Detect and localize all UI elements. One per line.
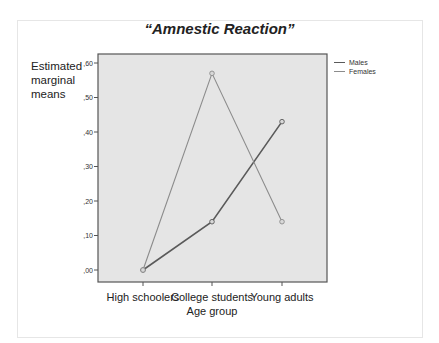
x-category-college-students: College students <box>171 291 253 303</box>
legend-item-males: Males <box>334 58 376 67</box>
y-axis-ticks: ,00,10,20,30,40,50,60 <box>83 60 98 274</box>
svg-text:,10: ,10 <box>83 232 93 239</box>
svg-text:,40: ,40 <box>83 129 93 136</box>
x-category-young-adults: Young adults <box>250 291 313 303</box>
x-axis-ticks <box>143 282 282 286</box>
svg-text:,30: ,30 <box>83 163 93 170</box>
legend: Males Females <box>334 58 376 76</box>
svg-text:,00: ,00 <box>83 267 93 274</box>
legend-item-females: Females <box>334 67 376 76</box>
svg-text:,60: ,60 <box>83 60 93 67</box>
svg-text:,50: ,50 <box>83 94 93 101</box>
x-category-high-schoolers: High schoolers <box>107 291 180 303</box>
females-line-swatch-icon <box>334 71 345 72</box>
x-axis-label: Age group <box>187 305 238 317</box>
svg-text:,20: ,20 <box>83 198 93 205</box>
males-line-swatch-icon <box>334 62 345 63</box>
plot-background <box>98 54 327 282</box>
